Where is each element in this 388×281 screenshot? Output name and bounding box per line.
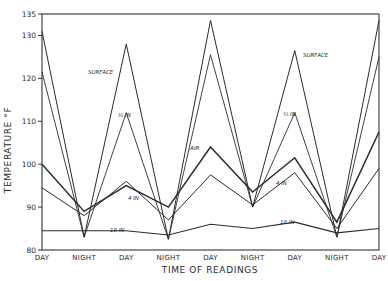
annotation-label: AIR bbox=[189, 145, 199, 151]
series-annotations: SURFACE½ IN4 IN18 INAIRSURFACE½ IN4 IN18… bbox=[88, 52, 329, 233]
x-tick-label: DAY bbox=[287, 254, 302, 262]
x-tick-label: NIGHT bbox=[325, 254, 349, 262]
y-tick-label: 90 bbox=[26, 203, 36, 212]
x-tick-label: NIGHT bbox=[241, 254, 265, 262]
y-tick-label: 130 bbox=[22, 31, 37, 40]
x-tick-label: DAY bbox=[119, 254, 134, 262]
x-tick-label: NIGHT bbox=[72, 254, 96, 262]
series-18-in bbox=[42, 222, 379, 235]
y-tick-label: 135 bbox=[22, 10, 37, 19]
annotation-label: 18 IN bbox=[110, 227, 124, 233]
x-tick-label: DAY bbox=[372, 254, 387, 262]
x-tick-label: NIGHT bbox=[156, 254, 180, 262]
annotation-label: ½ IN bbox=[118, 112, 131, 118]
x-tick-label: DAY bbox=[203, 254, 218, 262]
annotation-label: SURFACE bbox=[88, 69, 114, 75]
annotation-label: 4 IN bbox=[128, 195, 139, 201]
y-tick-label: 110 bbox=[22, 117, 37, 126]
annotation-label: 18 IN bbox=[280, 219, 294, 225]
annotation-label: ½ IN bbox=[283, 111, 296, 117]
y-tick-label: 120 bbox=[22, 74, 37, 83]
series-lines bbox=[42, 20, 379, 239]
x-tick-label: DAY bbox=[35, 254, 50, 262]
x-axis-title: Time of Readings bbox=[161, 265, 258, 275]
y-axis-title: Temperature °F bbox=[3, 107, 13, 194]
y-axis-ticks: 8090100110120130135 bbox=[22, 10, 42, 255]
y-tick-label: 100 bbox=[22, 160, 37, 169]
plot-frame bbox=[42, 14, 379, 250]
annotation-label: 4 IN bbox=[276, 180, 287, 186]
plot-border bbox=[42, 14, 379, 250]
temperature-line-chart: 8090100110120130135 DAYNIGHTDAYNIGHTDAYN… bbox=[0, 0, 388, 281]
annotation-label: SURFACE bbox=[303, 52, 329, 58]
x-axis-ticks: DAYNIGHTDAYNIGHTDAYNIGHTDAYNIGHTDAY bbox=[35, 254, 387, 262]
